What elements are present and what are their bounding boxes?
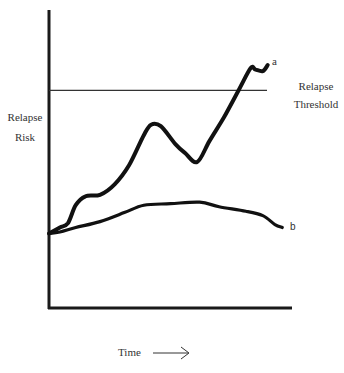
- series-b-curve: [49, 202, 282, 233]
- series-a-label: a: [272, 56, 277, 67]
- threshold-label-line2: Threshold: [288, 99, 344, 110]
- x-axis-label: Time: [118, 347, 141, 358]
- y-axis-label-line1: Relapse: [6, 112, 44, 123]
- relapse-risk-chart: [0, 0, 344, 373]
- threshold-label-line1: Relapse: [290, 81, 342, 92]
- y-axis-label-line2: Risk: [6, 132, 44, 143]
- series-b-label: b: [290, 222, 296, 232]
